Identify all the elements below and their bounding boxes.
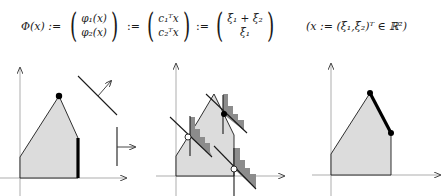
open-vertex-icon <box>231 166 237 172</box>
arrow-icon <box>98 81 111 96</box>
panel-1 <box>0 68 135 196</box>
endpoint-dot <box>367 90 373 96</box>
feasible-region <box>331 93 391 175</box>
normal-vector-diagonal <box>78 76 117 115</box>
panel-3 <box>312 64 440 196</box>
open-vertex-icon <box>185 134 191 140</box>
panel-2 <box>156 64 284 196</box>
feasible-region <box>20 96 78 178</box>
normal-vector-vertical <box>117 127 135 166</box>
optimal-vertex-dot <box>221 111 227 117</box>
optimal-vertex-dot <box>56 93 62 99</box>
figure-canvas <box>0 0 447 196</box>
endpoint-dot <box>388 130 394 136</box>
